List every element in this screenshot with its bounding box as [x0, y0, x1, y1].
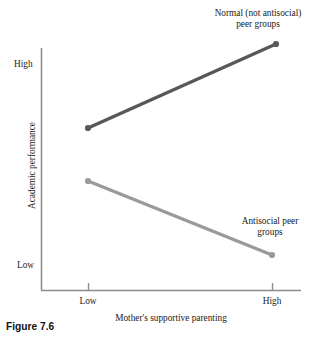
series-point-antisocial-high	[269, 252, 275, 258]
interaction-plot	[0, 0, 325, 337]
figure-container: Normal (not antisocial)peer groups Antis…	[0, 0, 325, 337]
normal-peer-groups-label-line2: peer groups	[236, 19, 280, 29]
y-axis-title: Academic performance	[27, 95, 38, 235]
y-axis-tick-low: Low	[17, 260, 34, 271]
series-point-normal-low	[85, 125, 91, 131]
antisocial-peer-groups-label-line1: Antisocial peer	[242, 216, 299, 226]
normal-peer-groups-label-line1: Normal (not antisocial)	[215, 8, 302, 18]
series-point-antisocial-low	[85, 178, 91, 184]
normal-peer-groups-label: Normal (not antisocial)peer groups	[196, 8, 320, 30]
y-axis-tick-high: High	[14, 59, 33, 70]
series-line-normal	[88, 44, 276, 128]
x-axis-tick-high: High	[252, 296, 292, 307]
series-point-normal-high	[273, 41, 279, 47]
x-axis-tick-low: Low	[68, 296, 108, 307]
antisocial-peer-groups-label: Antisocial peergroups	[224, 216, 316, 238]
figure-caption: Figure 7.6	[6, 321, 54, 332]
antisocial-peer-groups-label-line2: groups	[257, 227, 282, 237]
x-axis-title: Mother's supportive parenting	[60, 313, 282, 324]
